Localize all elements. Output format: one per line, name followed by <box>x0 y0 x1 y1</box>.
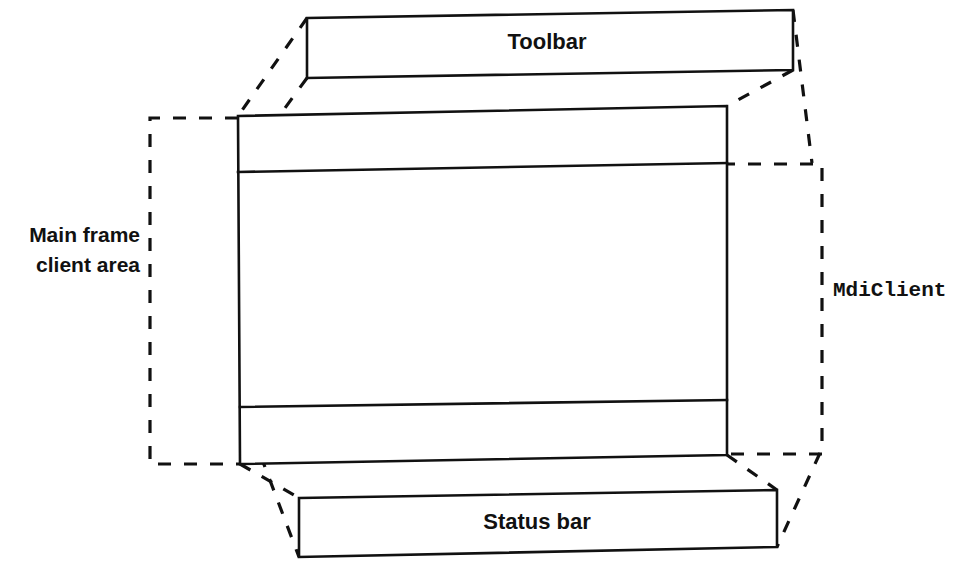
layout-diagram-canvas: Toolbar Status bar Main frame client are… <box>0 0 972 577</box>
mdi-client-label-text: MdiClient <box>833 279 946 302</box>
connector-statusbar-right-inner <box>727 455 777 490</box>
mdi-client-label: MdiClient <box>833 279 946 302</box>
main-frame-client-area-dashed-rect <box>150 118 240 464</box>
mdi-client-bracket <box>722 164 822 454</box>
main-frame-client-area-bracket <box>150 118 240 464</box>
status-bar-box: Status bar <box>299 490 777 557</box>
connector-toolbar-left-outer <box>238 18 307 116</box>
connector-toolbar-right-inner <box>727 70 793 106</box>
main-frame-window-fill <box>238 106 727 464</box>
main-frame-client-area-label-line1: Main frame <box>29 223 140 246</box>
status-bar-label: Status bar <box>483 509 591 534</box>
connector-toolbar-right-outer <box>793 10 812 163</box>
main-frame-client-area-label: Main frame client area <box>29 223 140 276</box>
diagram-root: Toolbar Status bar Main frame client are… <box>0 0 972 577</box>
toolbar-box: Toolbar <box>307 10 793 78</box>
mdi-client-dashed-rect <box>722 164 822 454</box>
connector-statusbar-right-outer <box>777 453 820 547</box>
main-frame-window <box>238 106 727 464</box>
main-frame-client-area-label-line2: client area <box>36 253 140 276</box>
toolbar-label: Toolbar <box>507 29 586 54</box>
